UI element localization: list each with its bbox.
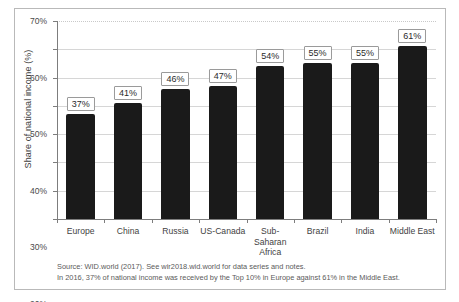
bar[interactable] (351, 63, 379, 219)
x-axis-category-label: US-Canada (200, 226, 245, 237)
x-axis-category-label: Middle East (390, 226, 435, 237)
bar[interactable] (303, 63, 331, 219)
source-note: Source: WID.world (2017). See wir2018.wi… (57, 261, 437, 272)
x-axis-tick (104, 219, 105, 223)
bar-value-label: 37% (67, 97, 95, 111)
bar-value-label: 55% (351, 46, 379, 60)
y-axis-tick-label: 50% (30, 129, 47, 139)
x-axis-category-label: Sub- Saharan Africa (254, 226, 287, 258)
y-axis-tick-label: 40% (30, 186, 47, 196)
gridline (57, 21, 436, 23)
chart-notes: Source: WID.world (2017). See wir2018.wi… (57, 261, 437, 283)
x-axis-tick (247, 219, 248, 223)
x-axis-tick (57, 219, 58, 223)
chart-figure: Share of national income (%) 37%41%46%47… (0, 0, 459, 302)
bar[interactable] (161, 89, 189, 219)
x-axis-category-label: Russia (162, 226, 188, 237)
gridline (57, 78, 436, 79)
bar[interactable] (256, 66, 284, 219)
bar[interactable] (66, 114, 94, 219)
x-axis-tick (294, 219, 295, 223)
x-axis-tick (152, 219, 153, 223)
x-axis-category-label: India (356, 226, 375, 237)
y-axis-tick-label: 70% (30, 16, 47, 26)
x-axis-tick (436, 219, 437, 223)
x-axis-category-label: China (117, 226, 139, 237)
bar[interactable] (398, 46, 426, 219)
bar-value-label: 46% (161, 72, 189, 86)
bar-value-label: 47% (209, 69, 237, 83)
bar-value-label: 54% (256, 49, 284, 63)
x-axis-tick (341, 219, 342, 223)
plot-area: 37%41%46%47%54%55%55%61% (57, 21, 436, 219)
x-axis-tick (199, 219, 200, 223)
y-axis-tick-label: 30% (30, 242, 47, 252)
bar[interactable] (114, 103, 142, 219)
x-axis-tick (389, 219, 390, 223)
footnote-note: In 2016, 37% of national income was rece… (57, 272, 437, 283)
x-axis-category-label: Brazil (307, 226, 329, 237)
bar-value-label: 61% (398, 29, 426, 43)
bar-value-label: 55% (304, 46, 332, 60)
y-axis-tick-label: 60% (30, 73, 47, 83)
y-axis-title: Share of national income (%) (23, 19, 33, 199)
y-axis-line (57, 21, 58, 220)
bar-value-label: 41% (114, 86, 142, 100)
bar[interactable] (209, 86, 237, 219)
gridline (57, 49, 436, 50)
x-axis-category-label: Europe (67, 226, 95, 237)
